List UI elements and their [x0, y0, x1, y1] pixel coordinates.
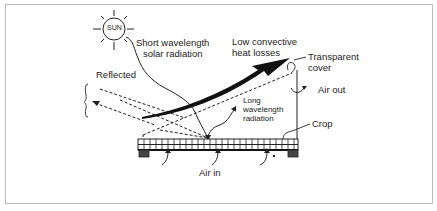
sun-label: SUN: [107, 24, 122, 32]
cover-line-2: cover: [308, 62, 359, 73]
convective-line-1: Low convective: [232, 36, 297, 47]
convective-line-2: heat losses: [232, 47, 297, 58]
reflected-label: Reflected: [96, 69, 136, 80]
cover-line-1: Transparent: [308, 51, 359, 62]
long-wavelength-label: Long wavelength radiation: [243, 96, 283, 123]
air-out-label: Air out: [318, 84, 345, 95]
short-wave-line-1: Short wavelength: [136, 37, 209, 48]
long-wave-line-2: wavelength: [243, 105, 283, 114]
convective-loss-label: Low convective heat losses: [232, 36, 297, 58]
air-in-label: Air in: [199, 167, 221, 178]
long-wave-line-3: radiation: [243, 114, 283, 123]
long-wave-line-1: Long: [243, 96, 283, 105]
dryer-diagram: [0, 0, 437, 211]
short-wavelength-label: Short wavelength solar radiation: [136, 37, 209, 59]
transparent-cover-label: Transparent cover: [308, 51, 359, 73]
short-wave-line-2: solar radiation: [136, 48, 209, 59]
air-in-arrows: [162, 152, 267, 165]
crop-label: Crop: [312, 118, 333, 129]
